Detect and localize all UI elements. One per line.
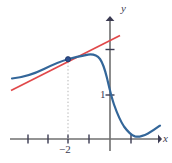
y-tick-label-one: 1: [100, 89, 106, 100]
x-axis-label: x: [163, 133, 168, 144]
graph-canvas: [0, 0, 172, 163]
y-axis-arrowhead: [106, 16, 115, 21]
x-axis-arrowhead: [158, 135, 162, 144]
x-tick-label-minus-two: −2: [59, 144, 71, 155]
function-curve: [12, 54, 160, 136]
tangent-line-graph-figure: y x −2 1: [0, 0, 172, 163]
y-axis-label: y: [121, 3, 126, 14]
tangency-point-marker: [65, 57, 70, 62]
tangent-line: [11, 36, 120, 91]
